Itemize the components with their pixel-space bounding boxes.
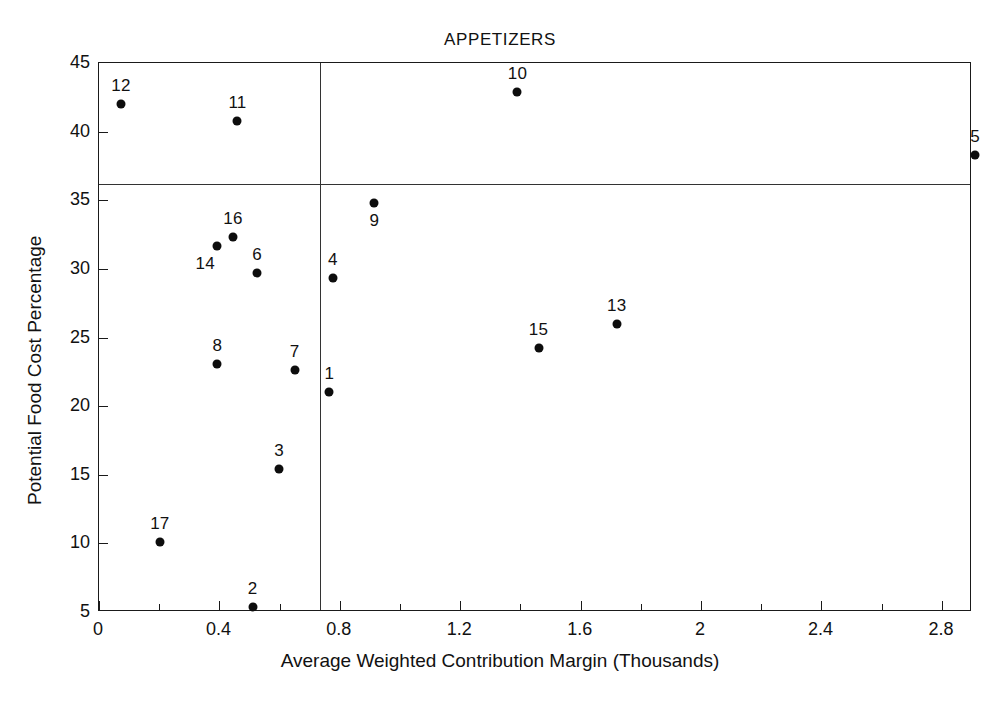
scatter-chart: APPETIZERS Potential Food Cost Percentag… xyxy=(0,0,1000,706)
data-point xyxy=(248,602,257,611)
x-axis-tick-label: 2.8 xyxy=(928,619,953,640)
x-axis-tick-label: 0 xyxy=(93,619,103,640)
y-axis-tick-label: 40 xyxy=(46,120,90,141)
x-axis-minor-tick xyxy=(280,604,281,610)
y-axis-tick xyxy=(99,543,108,544)
x-axis-tick xyxy=(460,601,461,610)
data-point-label: 17 xyxy=(150,514,169,534)
data-point xyxy=(233,116,242,125)
y-axis-tick xyxy=(99,475,108,476)
x-axis-tick-label: 0.8 xyxy=(326,619,351,640)
data-point xyxy=(116,100,125,109)
data-point xyxy=(213,359,222,368)
data-point-label: 5 xyxy=(970,127,980,147)
x-axis-tick xyxy=(942,601,943,610)
data-point-label: 7 xyxy=(290,342,300,362)
data-point-label: 2 xyxy=(248,579,258,599)
y-axis-tick-label: 30 xyxy=(46,257,90,278)
x-axis-minor-tick xyxy=(882,604,883,610)
data-point-label: 6 xyxy=(252,245,262,265)
data-point-label: 11 xyxy=(228,93,246,113)
x-axis-minor-tick xyxy=(159,604,160,610)
data-point xyxy=(534,344,543,353)
data-point-label: 13 xyxy=(607,296,626,316)
data-point-label: 10 xyxy=(508,64,527,84)
y-axis-label: Potential Food Cost Percentage xyxy=(24,236,46,505)
plot-area: 1234567891011121314151617 xyxy=(98,62,971,611)
x-axis-minor-tick xyxy=(761,604,762,610)
x-axis-tick xyxy=(701,601,702,610)
x-axis-minor-tick xyxy=(520,604,521,610)
y-axis-tick-label: 35 xyxy=(46,189,90,210)
data-point xyxy=(213,241,222,250)
data-point-label: 15 xyxy=(529,320,548,340)
chart-title: APPETIZERS xyxy=(0,30,1000,50)
data-point-label: 9 xyxy=(370,211,380,231)
data-point-label: 3 xyxy=(274,441,284,461)
x-axis-tick xyxy=(219,601,220,610)
y-axis-tick-label: 25 xyxy=(46,326,90,347)
x-axis-tick xyxy=(99,601,100,610)
x-axis-tick-label: 2 xyxy=(695,619,705,640)
y-axis-tick-label: 20 xyxy=(46,395,90,416)
x-axis-tick xyxy=(581,601,582,610)
y-axis-tick xyxy=(99,200,108,201)
y-axis-tick xyxy=(99,269,108,270)
data-point xyxy=(253,268,262,277)
x-axis-minor-tick xyxy=(400,604,401,610)
data-point xyxy=(290,366,299,375)
horizontal-reference-line xyxy=(99,184,970,185)
data-point xyxy=(328,274,337,283)
data-point xyxy=(155,538,164,547)
x-axis-tick-label: 1.6 xyxy=(567,619,592,640)
data-point xyxy=(612,319,621,328)
data-point xyxy=(228,233,237,242)
x-axis-tick xyxy=(821,601,822,610)
y-axis-tick-label: 45 xyxy=(46,52,90,73)
x-axis-tick xyxy=(340,601,341,610)
data-point-label: 8 xyxy=(212,336,222,356)
x-axis-tick-label: 0.4 xyxy=(206,619,231,640)
y-axis-tick xyxy=(99,132,108,133)
y-axis-tick-label: 15 xyxy=(46,463,90,484)
data-point-label: 12 xyxy=(111,76,130,96)
y-axis-tick-label: 5 xyxy=(46,601,90,622)
x-axis-tick-label: 2.4 xyxy=(808,619,833,640)
data-point-label: 1 xyxy=(324,364,334,384)
x-axis-label: Average Weighted Contribution Margin (Th… xyxy=(0,650,1000,672)
data-point-label: 4 xyxy=(328,250,338,270)
data-point-label: 16 xyxy=(223,209,242,229)
y-axis-tick-label: 10 xyxy=(46,532,90,553)
data-point xyxy=(513,87,522,96)
x-axis-minor-tick xyxy=(641,604,642,610)
y-axis-tick xyxy=(99,406,108,407)
y-axis-tick xyxy=(99,338,108,339)
x-axis-tick-label: 1.2 xyxy=(447,619,472,640)
data-point xyxy=(370,198,379,207)
vertical-reference-line xyxy=(320,63,321,610)
data-point xyxy=(275,465,284,474)
data-point xyxy=(971,150,980,159)
data-point xyxy=(325,388,334,397)
data-point-label: 14 xyxy=(196,254,215,274)
